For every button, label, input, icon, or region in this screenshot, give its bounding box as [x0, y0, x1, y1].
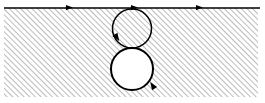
diagram-canvas [0, 0, 265, 103]
lower-circular-contour [111, 48, 153, 90]
figure-container [0, 0, 265, 103]
